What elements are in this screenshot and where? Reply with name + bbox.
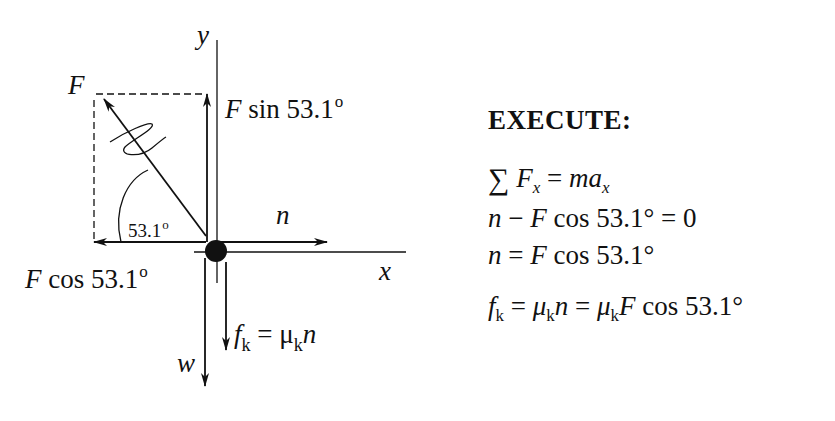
f-label: F — [68, 72, 85, 99]
fk-n: n — [303, 319, 317, 349]
eq-subscript: k — [496, 306, 505, 325]
fk-f: f — [234, 319, 242, 349]
coil-icon — [110, 124, 166, 155]
execute-section: EXECUTE: ∑ Fx = max n − F cos 53.1° = 0 … — [488, 105, 743, 328]
f-cos-func: cos — [42, 264, 92, 294]
degree-sign: o — [335, 92, 344, 111]
eq-term: n — [488, 203, 502, 233]
w-label: w — [177, 350, 195, 377]
eq-subscript: x — [533, 178, 541, 197]
eq-term: f — [488, 291, 496, 321]
fk-eq: = — [251, 319, 280, 349]
f-sin-prefix: F — [225, 94, 242, 124]
fk-sub: k — [242, 335, 251, 355]
angle-value: 53.1 — [128, 220, 161, 241]
eq-operator: − — [502, 203, 531, 233]
degree-sign: o — [139, 262, 148, 281]
degree-sign: o — [162, 217, 169, 232]
f-sin-func: sin — [242, 94, 287, 124]
eq-operator: = — [502, 240, 531, 270]
eq-term: μ — [597, 291, 611, 321]
eq-operator: = — [540, 163, 569, 193]
sigma-symbol: ∑ — [488, 162, 509, 195]
eq-term: μ — [533, 291, 547, 321]
eq-term: F — [619, 291, 636, 321]
f-sin-value: 53.1 — [287, 94, 334, 124]
eq-operator: = — [504, 291, 533, 321]
eq-rest: cos 53.1° = 0 — [547, 203, 697, 233]
fk-mu: μ — [279, 319, 293, 349]
eq-term: n — [488, 240, 502, 270]
eq-term: ma — [569, 163, 602, 193]
f-cos-prefix: F — [25, 264, 42, 294]
eq-term: F — [509, 163, 532, 193]
equation-n-minus-fcos: n − F cos 53.1° = 0 — [488, 200, 743, 237]
fk-label: fk = μkn — [234, 321, 316, 348]
eq-operator: = — [568, 291, 597, 321]
eq-subscript: k — [611, 306, 620, 325]
equation-sum-fx: ∑ Fx = max — [488, 158, 743, 200]
n-label: n — [276, 202, 290, 229]
eq-term: F — [530, 240, 547, 270]
equation-n-equals-fcos: n = F cos 53.1° — [488, 237, 743, 274]
eq-subscript: x — [602, 178, 610, 197]
eq-term: n — [555, 291, 569, 321]
f-cos-value: 53.1 — [91, 264, 138, 294]
fk-mu-sub: k — [294, 335, 303, 355]
object-dot — [205, 240, 227, 262]
eq-term: F — [530, 203, 547, 233]
x-axis-label: x — [379, 258, 391, 285]
f-cos-label: F cos 53.1o — [25, 266, 148, 293]
eq-rest: cos 53.1° — [547, 240, 655, 270]
equation-fk: fk = μkn = μkF cos 53.1° — [488, 288, 743, 328]
eq-rest: cos 53.1° — [636, 291, 744, 321]
f-sin-label: F sin 53.1o — [225, 96, 343, 123]
eq-subscript: k — [546, 306, 555, 325]
execute-title: EXECUTE: — [488, 105, 743, 136]
angle-label: 53.1o — [128, 221, 169, 240]
y-axis-label: y — [197, 22, 209, 49]
